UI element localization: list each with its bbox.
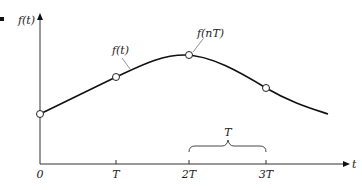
y-axis-arrow-icon (37, 13, 43, 20)
x-axis-arrow-icon (343, 161, 350, 167)
tick-label-2T: 2T (181, 168, 198, 181)
tick-label-T: T (112, 168, 121, 181)
bullet-marker (0, 17, 4, 21)
signal-curve (40, 55, 328, 114)
sample-point (37, 111, 44, 118)
sample-point (113, 74, 120, 81)
interval-label: T (224, 126, 233, 139)
curve-label: f(t) (111, 44, 129, 57)
sample-label: f(nT) (196, 27, 224, 40)
sample-point (263, 85, 270, 92)
y-axis-label: f(t) (17, 14, 35, 27)
curve-label-leader (122, 58, 130, 69)
tick-label-3T: 3T (259, 168, 275, 181)
tick-label-0: 0 (37, 168, 44, 181)
interval-brace (189, 140, 266, 152)
sampled-signal-diagram: f(t) t f(t) f(nT) T 0 T 2T 3T (0, 0, 362, 190)
sample-label-leader (193, 39, 203, 52)
sample-point (186, 52, 193, 59)
x-axis-label: t (352, 158, 357, 171)
